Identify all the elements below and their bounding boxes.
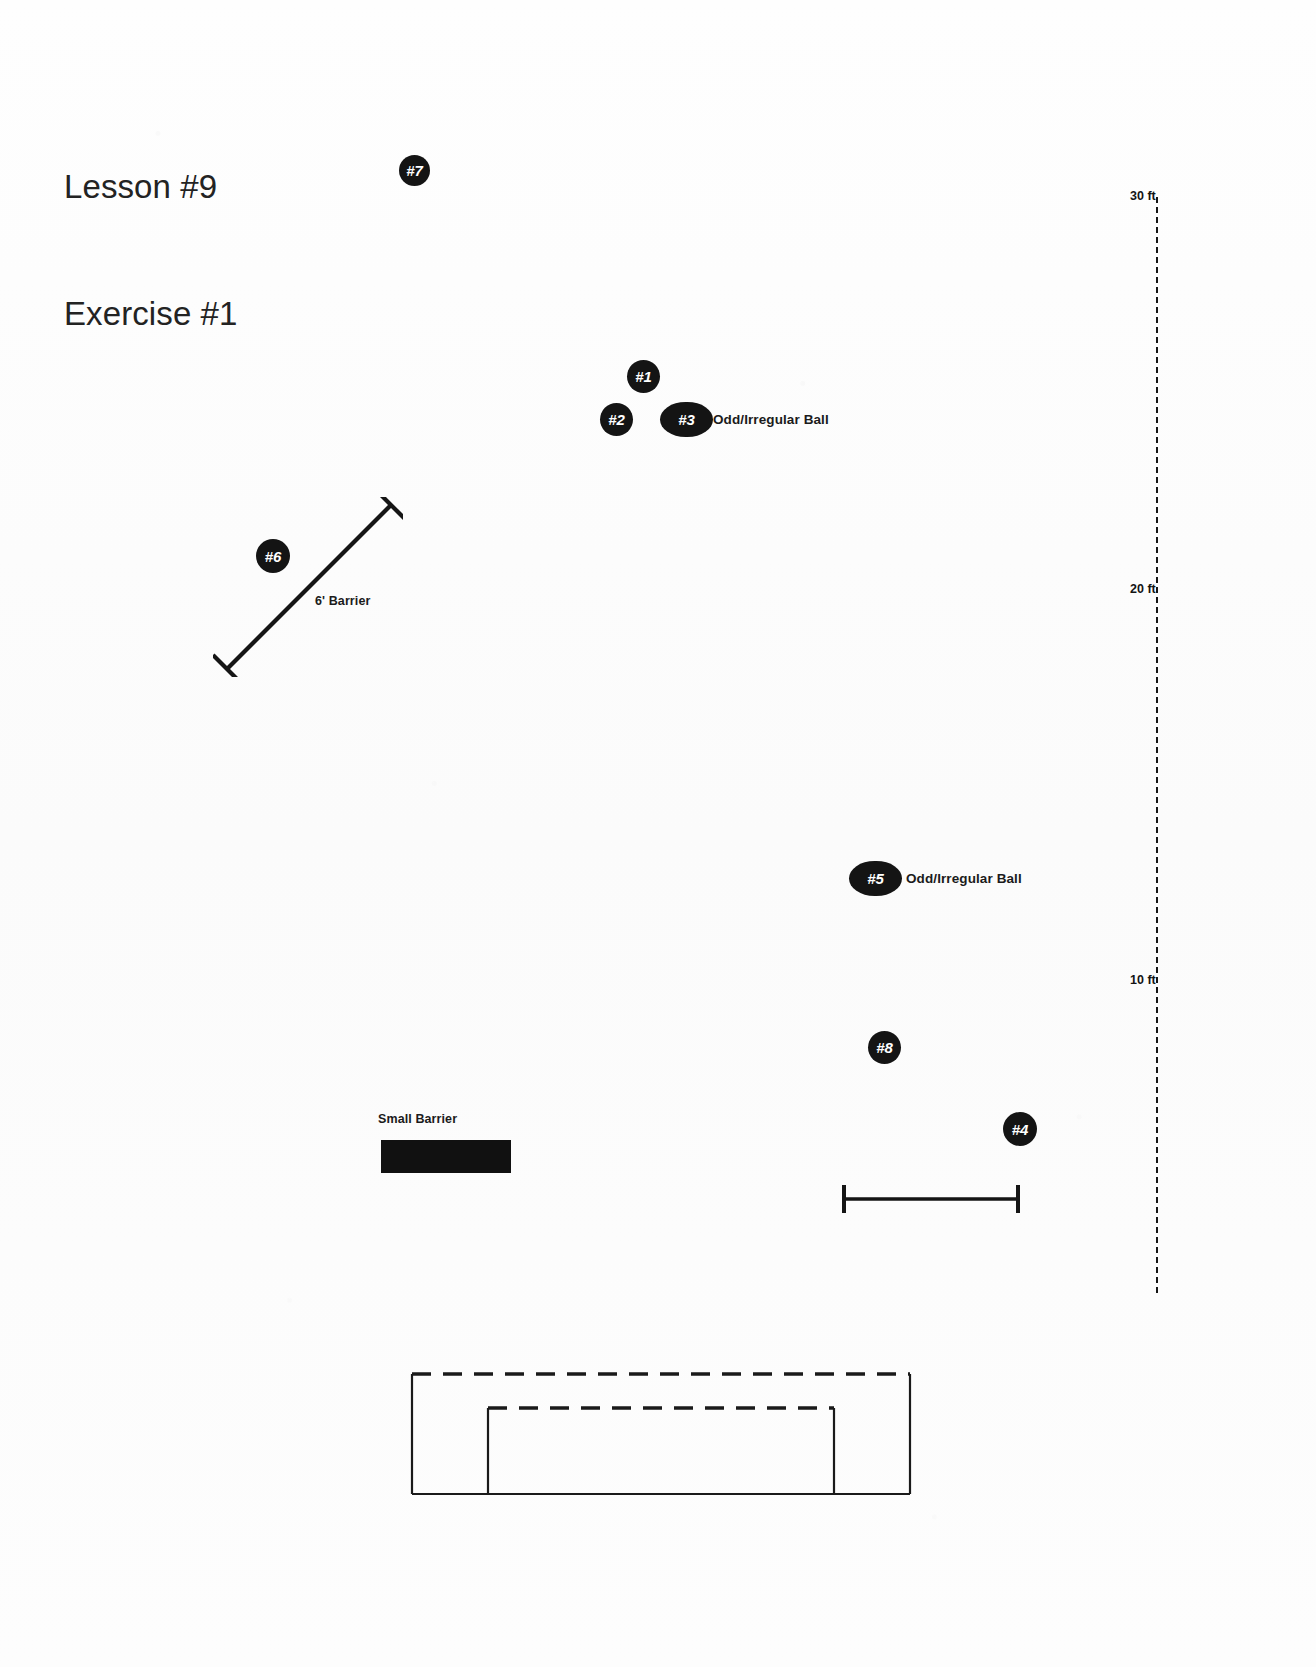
marker-6-label: #6 [265, 548, 281, 565]
marker-8[interactable]: #8 [868, 1031, 901, 1064]
marker-6[interactable]: #6 [256, 539, 290, 573]
marker-2-label: #2 [608, 411, 624, 428]
label-odd-ball-mid: Odd/Irregular Ball [906, 871, 1022, 886]
marker-3[interactable]: #3 [660, 402, 713, 437]
label-odd-ball-top: Odd/Irregular Ball [713, 412, 829, 427]
marker-5[interactable]: #5 [849, 861, 902, 896]
scale-tick-10ft: 10 ft [1130, 973, 1156, 987]
six-foot-barrier [213, 497, 403, 677]
marker-8-label: #8 [876, 1039, 892, 1056]
marker-2[interactable]: #2 [600, 403, 633, 436]
page-title: Lesson #9 Exercise #1 [64, 82, 238, 420]
marker-7[interactable]: #7 [399, 155, 430, 186]
small-barrier [381, 1140, 511, 1173]
marker-1[interactable]: #1 [627, 360, 660, 393]
marker-1-label: #1 [635, 368, 651, 385]
scale-tick-30ft: 30 ft [1130, 189, 1156, 203]
distance-scale: 30 ft 20 ft 10 ft [1130, 185, 1250, 1300]
measure-bar-svg [840, 1183, 1022, 1215]
page-title-line-2: Exercise #1 [64, 293, 238, 335]
exercise-diagram-page: Lesson #9 Exercise #1 30 ft 20 ft 10 ft [0, 0, 1316, 1667]
marker-4-label: #4 [1012, 1121, 1028, 1138]
goal-structure [410, 1368, 912, 1498]
goal-structure-svg [410, 1368, 912, 1498]
six-foot-barrier-svg [213, 497, 403, 677]
scale-tick-20ft: 20 ft [1130, 582, 1156, 596]
page-title-line-1: Lesson #9 [64, 166, 238, 208]
label-6ft-barrier: 6' Barrier [315, 594, 370, 608]
scale-dashed-line [1156, 197, 1158, 1293]
measure-bar [840, 1183, 1022, 1215]
marker-5-label: #5 [867, 870, 883, 887]
marker-7-label: #7 [406, 162, 422, 179]
marker-4[interactable]: #4 [1003, 1112, 1037, 1146]
label-small-barrier: Small Barrier [378, 1112, 457, 1126]
marker-3-label: #3 [678, 411, 694, 428]
barrier-line [227, 505, 391, 669]
